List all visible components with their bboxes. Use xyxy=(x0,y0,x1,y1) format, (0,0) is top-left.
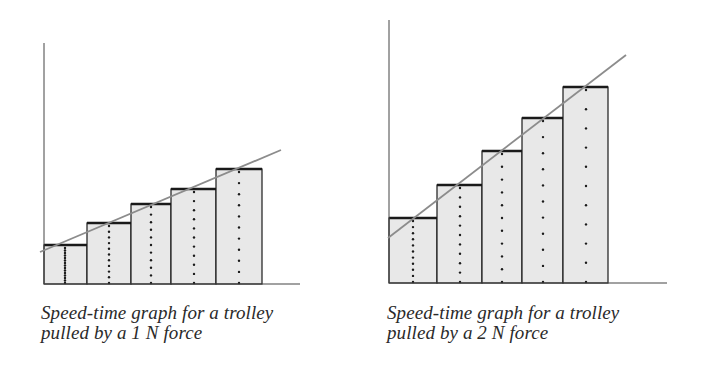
dot xyxy=(542,249,544,251)
dot xyxy=(64,277,66,279)
dot xyxy=(459,187,461,189)
dot xyxy=(585,146,587,148)
dot xyxy=(459,243,461,245)
dot xyxy=(501,204,503,206)
dot xyxy=(459,224,461,226)
dot xyxy=(193,191,195,193)
dot xyxy=(459,234,461,236)
dot xyxy=(459,206,461,208)
caption-2n-force: Speed-time graph for a trolley pulled by… xyxy=(387,303,619,343)
dot xyxy=(542,136,544,138)
dot xyxy=(412,226,414,228)
dot xyxy=(459,196,461,198)
dot xyxy=(64,259,66,261)
dot xyxy=(64,262,66,264)
dot xyxy=(64,252,66,254)
dot xyxy=(64,269,66,271)
dot xyxy=(150,236,152,238)
dot xyxy=(238,249,240,251)
graph-1n-force xyxy=(40,43,300,284)
dot xyxy=(238,260,240,262)
dot xyxy=(64,247,66,249)
dot xyxy=(193,255,195,257)
dot xyxy=(542,216,544,218)
dot xyxy=(585,166,587,168)
caption-1n-force: Speed-time graph for a trolley pulled by… xyxy=(41,303,273,343)
dot xyxy=(238,171,240,173)
dot xyxy=(193,236,195,238)
dot xyxy=(64,264,66,266)
dot xyxy=(585,262,587,264)
dot xyxy=(542,168,544,170)
dot xyxy=(64,254,66,256)
dot xyxy=(150,229,152,231)
dot xyxy=(412,250,414,252)
caption-line-2: pulled by a 1 N force xyxy=(41,323,273,343)
dot xyxy=(193,264,195,266)
dot xyxy=(412,256,414,258)
dot xyxy=(150,259,152,261)
dot xyxy=(412,269,414,271)
dot xyxy=(501,230,503,232)
dot xyxy=(585,223,587,225)
dot xyxy=(108,259,110,261)
dot xyxy=(150,244,152,246)
dot xyxy=(585,127,587,129)
dot xyxy=(150,274,152,276)
dot xyxy=(501,166,503,168)
dot xyxy=(150,251,152,253)
dot xyxy=(459,253,461,255)
dot xyxy=(501,242,503,244)
dot xyxy=(193,227,195,229)
dot xyxy=(238,193,240,195)
dot xyxy=(238,271,240,273)
dot xyxy=(585,89,587,91)
dot xyxy=(64,257,66,259)
dot xyxy=(64,267,66,269)
dot xyxy=(193,245,195,247)
caption-line-1: Speed-time graph for a trolley xyxy=(41,303,273,323)
dot xyxy=(585,204,587,206)
dot xyxy=(108,253,110,255)
dot xyxy=(193,218,195,220)
dot xyxy=(108,236,110,238)
dot xyxy=(501,191,503,193)
dot xyxy=(64,272,66,274)
dot xyxy=(501,217,503,219)
dot xyxy=(542,200,544,202)
dot xyxy=(412,238,414,240)
dot xyxy=(108,242,110,244)
dot xyxy=(238,237,240,239)
dot xyxy=(459,271,461,273)
dot xyxy=(542,265,544,267)
caption-line-2: pulled by a 2 N force xyxy=(387,323,619,343)
dot xyxy=(64,274,66,276)
dot xyxy=(150,267,152,269)
dot xyxy=(238,204,240,206)
dot xyxy=(501,255,503,257)
graph-2n-force xyxy=(388,20,667,283)
dot xyxy=(459,262,461,264)
dot xyxy=(150,213,152,215)
dot xyxy=(542,152,544,154)
dot xyxy=(64,279,66,281)
dot xyxy=(585,242,587,244)
dot xyxy=(585,185,587,187)
dot xyxy=(542,233,544,235)
dot xyxy=(542,184,544,186)
dot xyxy=(412,232,414,234)
dot xyxy=(108,248,110,250)
dot xyxy=(412,244,414,246)
dot xyxy=(150,221,152,223)
dot xyxy=(238,226,240,228)
figure-pair: Speed-time graph for a trolley pulled by… xyxy=(0,0,701,371)
dot xyxy=(238,215,240,217)
dot xyxy=(412,263,414,265)
dot xyxy=(412,275,414,277)
dot xyxy=(238,182,240,184)
dot xyxy=(501,178,503,180)
dot xyxy=(64,249,66,251)
dot xyxy=(459,215,461,217)
dot xyxy=(108,276,110,278)
dot xyxy=(108,225,110,227)
